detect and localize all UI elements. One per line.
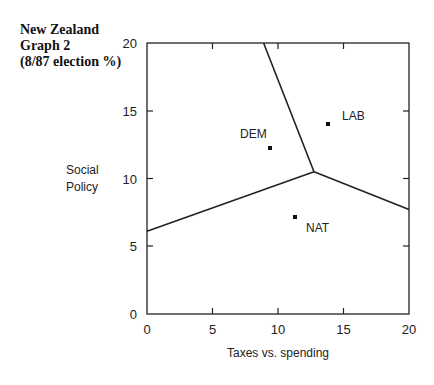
- boundary-upper: [264, 43, 314, 172]
- y-tick-0: 0: [130, 307, 137, 322]
- x-tick-15: 15: [336, 322, 350, 337]
- x-tick-5: 5: [209, 322, 216, 337]
- y-tick-5: 5: [130, 239, 137, 254]
- x-tick-10: 10: [271, 322, 285, 337]
- y-axis-label-line-1: Social: [66, 163, 99, 177]
- label-lab: LAB: [342, 109, 365, 123]
- point-lab: [326, 122, 330, 126]
- chart-canvas: 0 5 10 15 20 0 5 10 15 20 Taxes vs. spen…: [0, 0, 434, 385]
- x-tick-0: 0: [143, 322, 150, 337]
- boundary-left: [147, 172, 314, 232]
- boundary-right: [314, 172, 409, 210]
- y-tick-20: 20: [123, 36, 137, 51]
- boundary-lines: [147, 43, 409, 231]
- label-dem: DEM: [240, 127, 267, 141]
- point-nat: [293, 215, 297, 219]
- plot-frame: [147, 43, 409, 314]
- y-ticks: [147, 111, 409, 246]
- label-nat: NAT: [306, 221, 330, 235]
- point-dem: [268, 146, 272, 150]
- y-axis-label-line-2: Policy: [66, 180, 98, 194]
- y-tick-15: 15: [123, 104, 137, 119]
- x-tick-20: 20: [402, 322, 416, 337]
- x-ticks: [213, 43, 344, 314]
- x-axis-label: Taxes vs. spending: [227, 346, 329, 360]
- y-tick-10: 10: [123, 172, 137, 187]
